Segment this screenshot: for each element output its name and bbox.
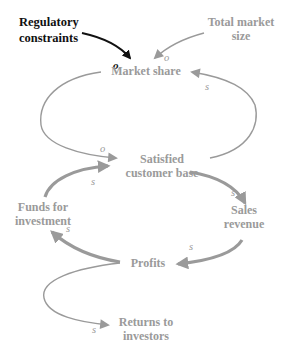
edge-regulatory-to-market-share — [82, 33, 130, 58]
svg-text:Sales: Sales — [231, 203, 257, 217]
svg-text:Regulatory: Regulatory — [19, 15, 79, 29]
node-market-share: Market share — [111, 64, 181, 78]
svg-text:investors: investors — [123, 329, 169, 343]
svg-text:Total market: Total market — [208, 15, 275, 29]
edge-satisfied-to-market-share — [192, 72, 256, 158]
svg-text:customer base: customer base — [126, 166, 199, 180]
causal-loop-diagram: o o o s s s s s s Regulatory constraints… — [0, 0, 282, 357]
svg-text:Profits: Profits — [131, 256, 166, 270]
svg-text:investment: investment — [15, 214, 71, 228]
edge-funds-to-satisfied — [45, 166, 108, 197]
polarity-pr-rti: s — [92, 324, 96, 335]
edge-profits-to-funds — [52, 232, 120, 262]
node-sales-revenue: Sales revenue — [224, 203, 265, 231]
svg-text:Returns to: Returns to — [119, 315, 173, 329]
node-satisfied-customer-base: Satisfied customer base — [126, 152, 199, 180]
node-regulatory-constraints: Regulatory constraints — [19, 15, 79, 45]
polarity-ms-scb: o — [100, 143, 105, 154]
edge-profits-to-returns — [44, 263, 120, 325]
polarity-ffi-scb: s — [91, 176, 95, 187]
polarity-tms-ms: o — [164, 52, 169, 63]
polarity-scb-ms: s — [205, 81, 209, 92]
svg-text:constraints: constraints — [19, 31, 78, 45]
edge-sales-to-profits — [178, 240, 242, 264]
svg-text:Funds for: Funds for — [18, 200, 69, 214]
node-funds-for-investment: Funds for investment — [15, 200, 71, 228]
node-profits: Profits — [131, 256, 166, 270]
polarity-sr-pr: s — [189, 241, 193, 252]
svg-text:Market share: Market share — [111, 64, 181, 78]
svg-text:size: size — [232, 29, 251, 43]
node-total-market-size: Total market size — [208, 15, 275, 43]
edge-total-market-to-market-share — [155, 33, 204, 58]
node-returns-to-investors: Returns to investors — [119, 315, 173, 343]
svg-text:revenue: revenue — [224, 217, 265, 231]
svg-text:Satisfied: Satisfied — [140, 152, 184, 166]
polarity-scb-sr: s — [231, 187, 235, 198]
